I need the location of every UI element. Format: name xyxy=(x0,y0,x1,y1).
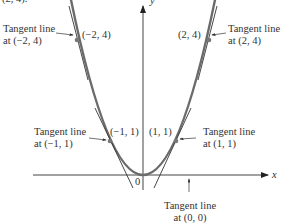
annotation-line2: at (2, 4) xyxy=(228,35,280,47)
arrow-minus2 xyxy=(56,33,73,35)
point-label-minus2-4: (−2, 4) xyxy=(82,29,111,41)
annotation-tangent-minus1: Tangent line at (−1, 1) xyxy=(34,126,86,150)
point-2-4 xyxy=(207,38,212,43)
arrow-minus1 xyxy=(89,138,106,140)
annotation-tangent-plus2: Tangent line at (2, 4) xyxy=(228,23,280,47)
point-minus2-4 xyxy=(75,38,80,43)
point-label-1-1: (1, 1) xyxy=(149,126,172,138)
annotation-tangent-minus2: Tangent line at (−2, 4) xyxy=(3,23,55,47)
arrow-plus2 xyxy=(212,33,226,35)
point-label-2-4: (2, 4) xyxy=(178,29,201,41)
annotation-line2: at (1, 1) xyxy=(203,138,255,150)
annotation-line2: at (−1, 1) xyxy=(34,138,86,150)
origin-label: 0 xyxy=(135,176,140,188)
annotation-line1: Tangent line xyxy=(164,200,216,212)
annotation-line1: Tangent line xyxy=(34,126,86,138)
tangent-line-plus1 xyxy=(154,108,191,188)
point-1-1 xyxy=(174,139,179,144)
annotation-line2: at (−2, 4) xyxy=(3,35,55,47)
point-minus1-1 xyxy=(108,139,113,144)
tangent-line-minus2 xyxy=(69,6,88,80)
annotation-tangent-origin: Tangent line at (0, 0) xyxy=(164,200,216,223)
annotation-line1: Tangent line xyxy=(203,126,255,138)
annotation-tangent-plus1: Tangent line at (1, 1) xyxy=(203,126,255,150)
tangent-line-plus2 xyxy=(198,6,217,80)
point-label-minus1-1: (−1, 1) xyxy=(110,126,139,138)
arrow-plus1 xyxy=(180,138,196,139)
top-text-fragment: (2, 4). xyxy=(2,0,27,5)
x-axis-label: x xyxy=(272,169,277,181)
y-axis-label: y xyxy=(150,0,155,7)
annotation-line2: at (0, 0) xyxy=(164,212,216,223)
annotation-line1: Tangent line xyxy=(3,23,55,35)
tangent-line-minus1 xyxy=(95,108,133,188)
annotation-line1: Tangent line xyxy=(228,23,280,35)
